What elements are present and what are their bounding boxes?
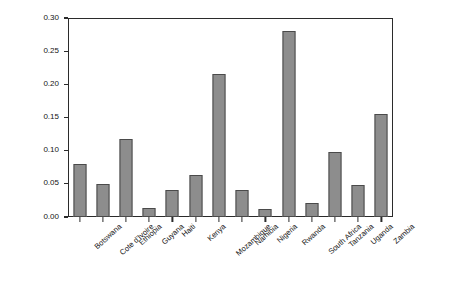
x-axis-tick-label: Botswana	[92, 222, 123, 251]
bar-slot	[347, 18, 370, 217]
bar	[328, 152, 341, 217]
bar-slot	[161, 18, 184, 217]
y-axis-tick-label: 0.15	[43, 112, 59, 121]
bar-slot	[68, 18, 91, 217]
bar	[305, 203, 318, 217]
x-axis-tick-mark	[195, 217, 196, 222]
x-axis-tick-mark	[242, 217, 243, 222]
bar	[96, 184, 109, 217]
bar	[120, 139, 133, 217]
x-axis-tick-label: Zambia	[392, 222, 417, 246]
bar	[352, 185, 365, 217]
x-axis-tick-mark	[358, 217, 359, 222]
x-axis-tick-mark	[288, 217, 289, 222]
x-axis-tick-mark	[334, 217, 335, 222]
bar-series	[68, 18, 393, 217]
x-axis-tick-label: Rwanda	[300, 222, 327, 247]
bar	[166, 190, 179, 217]
x-axis-tick-mark	[172, 217, 173, 222]
bar	[259, 209, 272, 217]
bar	[375, 114, 388, 217]
bar-slot	[114, 18, 137, 217]
x-axis-tick-label: Nigeria	[275, 222, 299, 245]
bar-slot	[300, 18, 323, 217]
bar-slot	[207, 18, 230, 217]
bar-slot	[254, 18, 277, 217]
y-axis-tick-label: 0.30	[43, 13, 59, 22]
bar-slot	[231, 18, 254, 217]
x-axis-tick-mark	[102, 217, 103, 222]
x-axis-tick-mark	[218, 217, 219, 222]
y-axis-tick-label: 0.00	[43, 212, 59, 221]
y-axis-tick-label: 0.25	[43, 46, 59, 55]
y-axis-tick-label: 0.20	[43, 79, 59, 88]
bar-slot	[184, 18, 207, 217]
x-axis-tick-mark	[79, 217, 80, 222]
x-axis-tick-mark	[381, 217, 382, 222]
y-axis-tick-label: 0.10	[43, 145, 59, 154]
bar-slot	[370, 18, 393, 217]
y-axis-tick-label: 0.05	[43, 178, 59, 187]
bar-slot	[323, 18, 346, 217]
x-axis-labels: BotswanaCote d'IvoireEthiopiaGuyanaHaiti…	[68, 222, 393, 280]
bar-slot	[138, 18, 161, 217]
bar	[73, 164, 86, 217]
bar	[189, 175, 202, 217]
bar-slot	[277, 18, 300, 217]
bar	[143, 208, 156, 217]
bar	[282, 31, 295, 217]
x-axis-tick-mark	[311, 217, 312, 222]
bar	[212, 74, 225, 217]
x-axis-tick-label: Kenya	[205, 222, 227, 243]
x-axis-tick-mark	[125, 217, 126, 222]
bar-chart-figure: Percentage 0.000.050.100.150.200.250.30 …	[0, 0, 457, 282]
bar-slot	[91, 18, 114, 217]
bar	[236, 190, 249, 217]
